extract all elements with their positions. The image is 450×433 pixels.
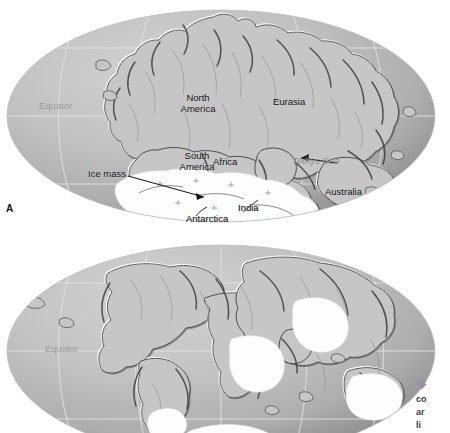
globe-b-svg <box>0 243 450 433</box>
label-india: India <box>238 203 259 214</box>
label-eurasia: Eurasia <box>273 97 305 108</box>
label-south-america-line2: America <box>180 161 215 172</box>
caption-fragment: co ar li <box>416 378 450 430</box>
panel-letter-a: A <box>6 203 13 214</box>
caption-line-1: co <box>416 394 427 404</box>
equator-label-b: Equator <box>45 343 78 354</box>
label-north-america-line2: America <box>181 103 216 114</box>
map-panel-b: Equator <box>0 243 450 433</box>
globe-b <box>0 243 450 433</box>
caption-line-2: ar <box>416 407 425 417</box>
diamond-bullet-icon <box>417 380 427 390</box>
label-africa: Africa <box>213 157 237 168</box>
label-north-america-line1: North <box>186 92 209 103</box>
label-south-america-line1: South <box>185 150 210 161</box>
label-ice-mass: Ice mass <box>88 169 126 180</box>
equator-label-a: Equator <box>39 100 72 111</box>
label-north-america: North America <box>170 93 226 114</box>
label-australia: Australia <box>325 187 362 198</box>
label-antarctica: Antarctica <box>186 214 228 225</box>
caption-line-3: li <box>416 420 421 430</box>
label-tethys-sea: Tethys Sea <box>292 155 339 166</box>
globe-a-svg <box>0 0 450 240</box>
globe-a <box>0 0 450 240</box>
map-panel-a: Equator North America Eurasia South Amer… <box>0 0 450 240</box>
